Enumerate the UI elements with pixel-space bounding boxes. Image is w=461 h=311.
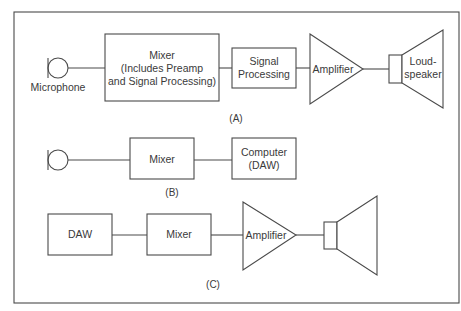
computer-label: Computer — [241, 146, 288, 158]
microphone-label: Microphone — [31, 81, 86, 93]
loudspeaker-icon — [324, 196, 377, 275]
mixer-label: Mixer — [149, 153, 175, 165]
computer-label-2: (DAW) — [248, 159, 279, 171]
panel-a: Microphone Mixer (Includes Preamp and Si… — [31, 30, 443, 124]
daw-label: DAW — [68, 228, 92, 240]
panel-c-caption: (C) — [206, 279, 220, 290]
amplifier-label: Amplifier — [313, 63, 354, 75]
panel-a-caption: (A) — [229, 113, 242, 124]
mixer-label-3: and Signal Processing) — [108, 75, 216, 87]
panel-b-caption: (B) — [165, 187, 178, 198]
signal-processing-label-2: Processing — [238, 68, 290, 80]
mixer-label: Mixer — [166, 228, 192, 240]
mixer-label: Mixer — [149, 49, 175, 61]
loudspeaker-label: Loud- — [410, 55, 437, 67]
loudspeaker-label-2: speaker — [404, 68, 442, 80]
signal-chain-diagram: Microphone Mixer (Includes Preamp and Si… — [0, 0, 461, 311]
signal-processing-label: Signal — [249, 55, 278, 67]
microphone-icon — [48, 58, 68, 78]
microphone-icon — [48, 150, 68, 170]
panel-b: Mixer Computer (DAW) (B) — [48, 138, 296, 198]
panel-c: DAW Mixer Amplifier (C) — [48, 196, 377, 290]
mixer-label-2: (Includes Preamp — [121, 62, 203, 74]
amplifier-label: Amplifier — [246, 229, 287, 241]
